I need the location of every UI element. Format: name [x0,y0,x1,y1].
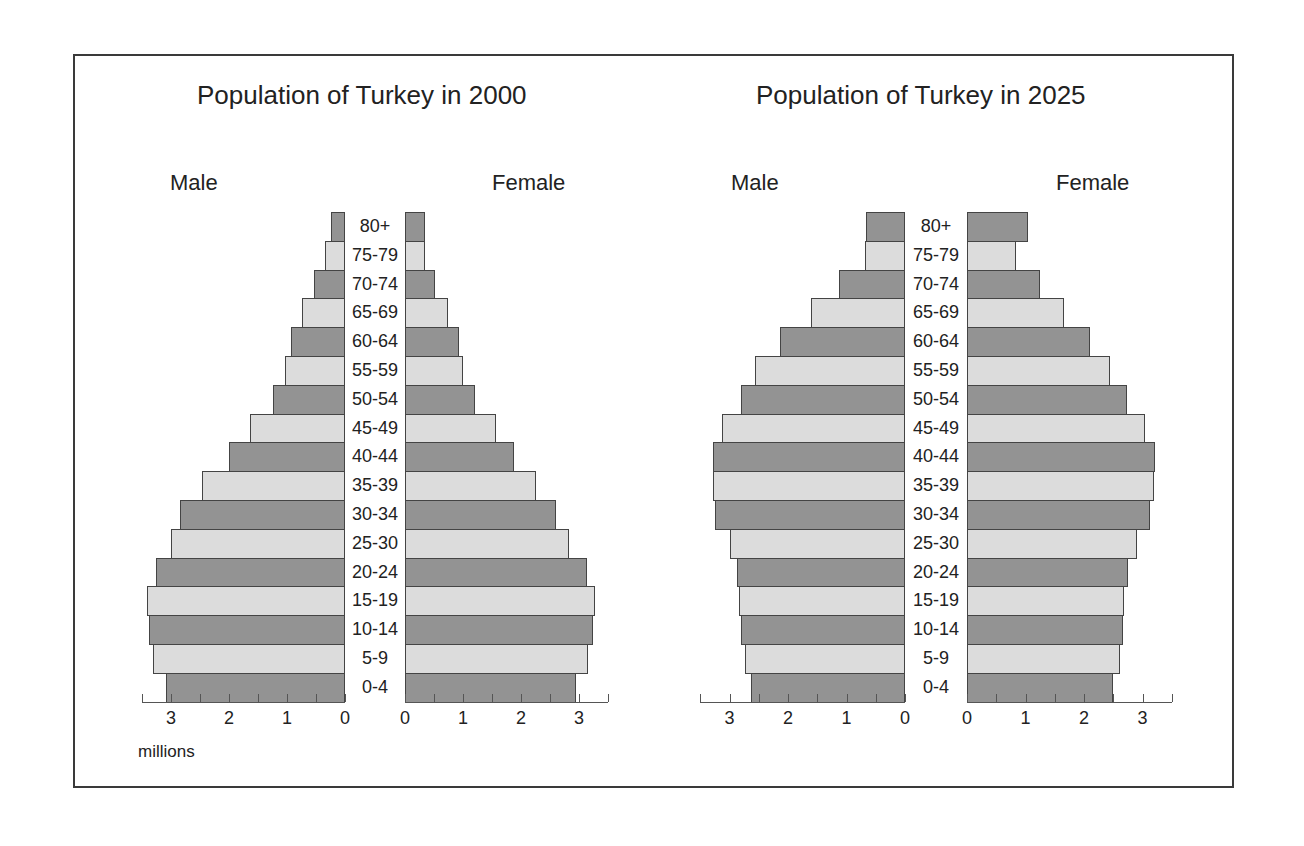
female-bar-2000-40-44 [405,442,514,472]
age-group-label: 0-4 [345,673,405,702]
female-axis-tick [434,694,435,702]
female-axis-tick [550,694,551,702]
male-bar-2000-25-30 [171,529,345,559]
male-axis-tick-label: 1 [277,708,297,729]
male-bar-2025-30-34 [715,500,905,530]
male-axis-tick [287,694,288,702]
female-label-2000: Female [492,170,565,196]
female-bar-2025-65-69 [967,298,1064,328]
female-bar-2025-30-34 [967,500,1150,530]
female-bar-2025-60-64 [967,327,1090,357]
female-bar-2000-50-54 [405,385,475,415]
male-axis-tick-label: 3 [161,708,181,729]
female-bar-2025-35-39 [967,471,1154,501]
female-bar-2025-20-24 [967,558,1128,588]
chart-title-2000: Population of Turkey in 2000 [197,80,527,111]
age-group-label: 5-9 [345,644,405,673]
male-bar-2025-40-44 [713,442,905,472]
male-bar-2000-15-19 [147,586,345,616]
female-bar-2000-45-49 [405,414,496,444]
male-axis-tick [905,694,906,702]
male-label-2000: Male [170,170,218,196]
male-bar-2000-40-44 [229,442,345,472]
male-bar-2025-35-39 [713,471,905,501]
male-axis-tick [876,694,877,702]
age-group-label: 5-9 [906,644,966,673]
female-axis-tick [579,694,580,702]
female-bar-2025-10-14 [967,615,1123,645]
age-group-label: 60-64 [906,327,966,356]
male-bar-2025-75-79 [865,241,905,271]
male-axis-tick [700,694,701,702]
male-bar-2000-60-64 [291,327,345,357]
age-group-label: 35-39 [345,471,405,500]
age-group-label: 45-49 [345,414,405,443]
female-axis-tick [996,694,997,702]
age-group-label: 25-30 [345,529,405,558]
female-bar-2025-70-74 [967,270,1040,300]
female-bar-2000-35-39 [405,471,536,501]
female-bar-2000-5-9 [405,644,588,674]
female-bar-2025-80+ [967,212,1028,242]
male-bar-2025-10-14 [741,615,905,645]
male-bar-2000-35-39 [202,471,345,501]
male-axis-tick-label: 3 [720,708,740,729]
female-axis-tick [608,694,609,702]
female-bar-2000-70-74 [405,270,435,300]
male-bar-2025-15-19 [739,586,905,616]
age-group-label: 75-79 [906,241,966,270]
male-axis-tick [200,694,201,702]
male-bar-2000-30-34 [180,500,345,530]
male-axis-tick [142,694,143,702]
female-axis-tick [1113,694,1114,702]
female-axis-tick-label: 3 [569,708,589,729]
male-bar-2000-50-54 [273,385,345,415]
age-group-label: 55-59 [906,356,966,385]
female-axis-tick [1055,694,1056,702]
age-group-label: 55-59 [345,356,405,385]
female-axis-tick [1143,694,1144,702]
male-bar-2025-80+ [866,212,905,242]
age-group-label: 15-19 [345,586,405,615]
female-axis-tick-label: 2 [511,708,531,729]
female-axis-tick [521,694,522,702]
male-bar-2025-20-24 [737,558,905,588]
female-bar-2000-20-24 [405,558,587,588]
age-group-label: 10-14 [906,615,966,644]
male-bar-2025-25-30 [730,529,906,559]
age-group-label: 20-24 [906,558,966,587]
age-group-label: 25-30 [906,529,966,558]
female-axis-tick-label: 0 [395,708,415,729]
male-bar-2025-70-74 [839,270,905,300]
female-bar-2000-60-64 [405,327,459,357]
female-bar-2000-30-34 [405,500,556,530]
female-bar-2000-80+ [405,212,425,242]
chart-title-2025: Population of Turkey in 2025 [756,80,1086,111]
female-bar-2000-25-30 [405,529,569,559]
age-group-label: 50-54 [345,385,405,414]
age-group-label: 65-69 [345,298,405,327]
male-axis-tick [730,694,731,702]
female-bar-2025-15-19 [967,586,1124,616]
male-bar-2000-20-24 [156,558,345,588]
male-x-axis-2000 [142,702,345,703]
male-bar-2000-45-49 [250,414,345,444]
male-bar-2025-60-64 [780,327,905,357]
female-axis-tick [967,694,968,702]
male-axis-tick [171,694,172,702]
male-bar-2000-0-4 [166,673,345,703]
male-axis-tick [759,694,760,702]
male-axis-tick [817,694,818,702]
female-axis-tick-label: 1 [453,708,473,729]
male-bar-2025-0-4 [751,673,905,703]
age-group-label: 0-4 [906,673,966,702]
female-axis-tick [492,694,493,702]
male-bar-2025-50-54 [741,385,905,415]
female-axis-tick-label: 3 [1133,708,1153,729]
age-group-label: 70-74 [906,270,966,299]
female-axis-tick-label: 1 [1016,708,1036,729]
male-x-axis-2025 [700,702,905,703]
age-group-label: 10-14 [345,615,405,644]
male-axis-tick [316,694,317,702]
male-bar-2000-10-14 [149,615,345,645]
